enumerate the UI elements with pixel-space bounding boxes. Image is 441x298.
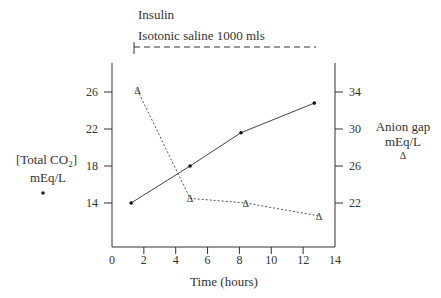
x-tick-label: 4: [173, 253, 179, 267]
right-tick-label: 26: [349, 159, 361, 173]
x-tick-label: 12: [297, 253, 309, 267]
left-y-ticks: 14182226: [86, 85, 112, 210]
right-tick-label: 22: [349, 196, 361, 210]
anion-gap-data-point: Δ: [243, 198, 250, 209]
series-anion-gap: ΔΔΔΔ: [134, 85, 323, 222]
left-tick-label: 14: [86, 196, 98, 210]
right-tick-label: 34: [349, 85, 361, 99]
left-tick-label: 22: [86, 122, 98, 136]
insulin-label: Insulin: [138, 7, 175, 22]
anion-gap-data-point: Δ: [134, 85, 141, 96]
anion-gap-data-point: Δ: [316, 211, 323, 222]
series-total-co2: [129, 101, 316, 205]
right-axis-label: Anion gap: [376, 119, 431, 134]
x-tick-label: 0: [109, 253, 115, 267]
left-tick-label: 18: [86, 159, 98, 173]
x-tick-label: 6: [205, 253, 211, 267]
right-tick-label: 30: [349, 122, 361, 136]
right-y-ticks: 22263034: [335, 85, 361, 210]
co2-legend-dot-icon: [41, 191, 45, 195]
saline-label: Isotonic saline 1000 mls: [138, 28, 265, 43]
x-tick-label: 10: [265, 253, 277, 267]
anion-gap-data-point: Δ: [187, 193, 194, 204]
x-tick-label: 2: [141, 253, 147, 267]
co2-data-point: [129, 201, 133, 205]
x-ticks: 02468101214: [109, 247, 341, 267]
left-axis-label: [Total CO2]: [16, 152, 77, 169]
left-tick-label: 26: [86, 85, 98, 99]
co2-data-point: [239, 131, 243, 135]
chart: Insulin Isotonic saline 1000 mls 1418222…: [0, 0, 441, 298]
x-tick-label: 14: [329, 253, 341, 267]
x-tick-label: 8: [236, 253, 242, 267]
left-axis-unit: mEq/L: [30, 170, 66, 185]
plot-frame: [112, 63, 335, 247]
anion-gap-legend-triangle-icon: Δ: [400, 150, 407, 161]
right-axis-unit: mEq/L: [385, 134, 421, 149]
co2-data-point: [188, 164, 192, 168]
co2-data-point: [312, 101, 316, 105]
x-axis-label: Time (hours): [190, 274, 258, 289]
